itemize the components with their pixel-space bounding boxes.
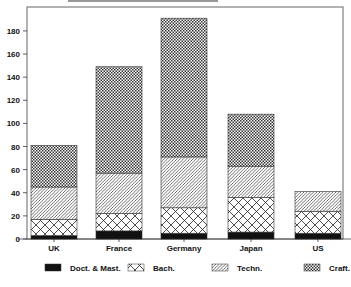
x-category-label: US bbox=[312, 244, 324, 253]
y-tick-label: 20 bbox=[11, 212, 20, 221]
bar-germany[interactable] bbox=[161, 18, 207, 239]
legend-swatch-diagonal-lines bbox=[212, 264, 228, 271]
bar-us[interactable] bbox=[295, 192, 341, 239]
legend-label: Bach. bbox=[153, 264, 175, 273]
y-tick-label: 180 bbox=[7, 27, 21, 36]
y-tick-label: 140 bbox=[7, 73, 21, 82]
bar-segment-crosshatch-diamond[interactable] bbox=[295, 211, 341, 233]
bar-segment-crosshatch-diamond[interactable] bbox=[96, 214, 142, 231]
legend-item: Techn. bbox=[212, 264, 262, 273]
cropped-title-remnant bbox=[68, 0, 218, 2]
x-category-label: UK bbox=[48, 244, 60, 253]
y-tick-label: 40 bbox=[11, 189, 20, 198]
bar-segment-dense-checker[interactable] bbox=[161, 18, 207, 157]
x-axis: UKFranceGermanyJapanUS bbox=[48, 239, 324, 253]
bar-segment-dense-checker[interactable] bbox=[31, 145, 77, 187]
stacked-bar-chart: 020406080100120140160180 UKFranceGermany… bbox=[0, 0, 351, 287]
bar-segment-diagonal-lines[interactable] bbox=[31, 187, 77, 219]
x-category-label: France bbox=[106, 244, 133, 253]
legend-swatch-crosshatch-diamond bbox=[128, 264, 144, 271]
bar-france[interactable] bbox=[96, 67, 142, 239]
legend-label: Doct. & Mast. bbox=[70, 264, 121, 273]
bar-segment-diagonal-lines[interactable] bbox=[161, 157, 207, 208]
bar-segment-dense-checker[interactable] bbox=[228, 114, 274, 166]
legend-label: Craft. bbox=[329, 264, 350, 273]
y-tick-label: 100 bbox=[7, 119, 21, 128]
bar-segment-solid-black[interactable] bbox=[161, 233, 207, 239]
y-tick-label: 160 bbox=[7, 50, 21, 59]
bar-segment-dense-checker[interactable] bbox=[96, 67, 142, 173]
legend-swatch-solid-black bbox=[45, 264, 61, 271]
legend-swatch-dense-checker bbox=[304, 264, 320, 271]
legend-item: Doct. & Mast. bbox=[45, 264, 121, 273]
y-tick-label: 0 bbox=[16, 235, 21, 244]
legend-item: Craft. bbox=[304, 264, 350, 273]
bar-uk[interactable] bbox=[31, 145, 77, 239]
bar-segment-crosshatch-diamond[interactable] bbox=[161, 208, 207, 233]
x-category-label: Japan bbox=[239, 244, 262, 253]
bar-segment-solid-black[interactable] bbox=[96, 231, 142, 239]
x-category-label: Germany bbox=[167, 244, 202, 253]
bar-segment-diagonal-lines[interactable] bbox=[228, 166, 274, 197]
bar-segment-diagonal-lines[interactable] bbox=[96, 173, 142, 213]
y-tick-label: 80 bbox=[11, 143, 20, 152]
bar-segment-crosshatch-diamond[interactable] bbox=[228, 197, 274, 232]
legend-item: Bach. bbox=[128, 264, 175, 273]
bars-group bbox=[31, 18, 341, 239]
bar-segment-crosshatch-diamond[interactable] bbox=[31, 219, 77, 235]
bar-japan[interactable] bbox=[228, 114, 274, 239]
bar-segment-solid-black[interactable] bbox=[295, 233, 341, 239]
legend: Doct. & Mast.Bach.Techn.Craft. bbox=[45, 264, 350, 273]
legend-label: Techn. bbox=[237, 264, 262, 273]
y-tick-label: 60 bbox=[11, 166, 20, 175]
bar-segment-solid-black[interactable] bbox=[31, 236, 77, 239]
bar-segment-diagonal-lines[interactable] bbox=[295, 192, 341, 212]
y-tick-label: 120 bbox=[7, 96, 21, 105]
bar-segment-solid-black[interactable] bbox=[228, 232, 274, 239]
